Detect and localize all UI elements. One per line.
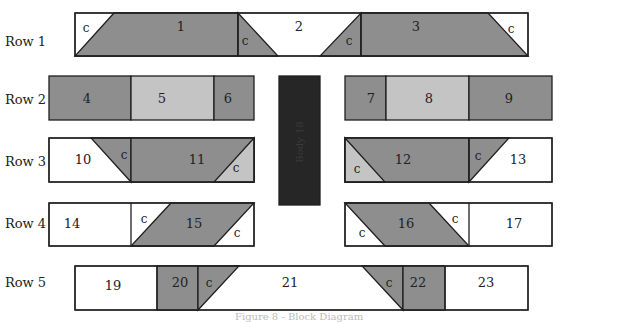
label-7: 7 (367, 91, 375, 106)
c-label: c (233, 161, 240, 175)
row-2-right (345, 76, 552, 120)
label-20: 20 (172, 275, 189, 290)
c-label: c (475, 149, 482, 163)
label-9: 9 (505, 91, 513, 106)
label-13: 13 (510, 152, 527, 167)
label-11: 11 (189, 152, 206, 167)
c-label: c (83, 21, 90, 35)
c-label: c (121, 148, 128, 162)
label-12: 12 (395, 152, 412, 167)
label-15: 15 (186, 216, 203, 231)
c-label: c (242, 34, 249, 48)
label-21: 21 (282, 275, 299, 290)
label-19: 19 (105, 278, 122, 293)
label-14: 14 (64, 216, 81, 231)
c-label: c (141, 212, 148, 226)
label-4: 4 (83, 91, 91, 106)
figure-caption: Figure 8 - Block Diagram (235, 311, 363, 322)
c-label: c (234, 226, 241, 240)
label-23: 23 (478, 275, 495, 290)
label-3: 3 (412, 19, 420, 34)
piece-6 (214, 76, 254, 120)
label-22: 22 (410, 275, 427, 290)
c-label: c (346, 34, 353, 48)
label-1: 1 (177, 19, 185, 34)
piece-7 (345, 76, 386, 120)
c-label: c (452, 212, 459, 226)
label-10: 10 (75, 152, 92, 167)
c-label: c (359, 226, 366, 240)
body-block-label: Body 18 (294, 121, 305, 162)
label-6: 6 (224, 91, 232, 106)
row-5-frame (75, 266, 528, 310)
label-5: 5 (158, 91, 166, 106)
piece-5 (131, 76, 214, 120)
label-16: 16 (398, 216, 415, 231)
row-5 (75, 266, 528, 310)
c-label: c (386, 276, 393, 290)
label-2: 2 (295, 19, 303, 34)
c-label: c (508, 22, 515, 36)
c-label: c (354, 162, 361, 176)
c-label: c (206, 276, 213, 290)
label-17: 17 (506, 216, 523, 231)
label-8: 8 (425, 91, 433, 106)
